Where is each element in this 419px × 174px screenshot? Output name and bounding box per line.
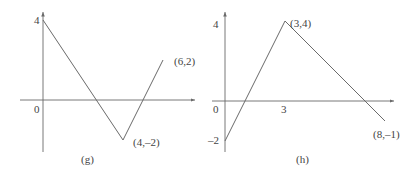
h-annotation-8-neg1: (8,–1) xyxy=(373,128,400,141)
g-caption: (g) xyxy=(81,153,94,166)
h-caption: (h) xyxy=(296,153,309,166)
graph-g: 4 0 (6,2) (4,–2) (g) xyxy=(20,12,195,166)
h-y-tick-neg2: –2 xyxy=(207,134,219,146)
h-origin-label: 0 xyxy=(213,103,219,115)
h-y-tick-4: 4 xyxy=(213,18,219,30)
h-x-tick-3: 3 xyxy=(281,103,287,115)
g-curve xyxy=(43,20,163,140)
g-annotation-6-2: (6,2) xyxy=(174,55,195,68)
g-origin-label: 0 xyxy=(34,103,40,115)
h-annotation-3-4: (3,4) xyxy=(290,17,311,30)
g-annotation-4-neg2: (4,–2) xyxy=(133,136,160,149)
figure: 4 0 (6,2) (4,–2) (g) 4 –2 0 3 (3,4) (8,–… xyxy=(0,0,419,174)
g-y-tick-4: 4 xyxy=(34,14,40,26)
graph-h: 4 –2 0 3 (3,4) (8,–1) (h) xyxy=(207,12,400,166)
h-curve xyxy=(225,21,385,141)
